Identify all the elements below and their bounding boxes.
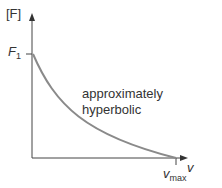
- f1-label: F1: [8, 44, 21, 61]
- x-axis-label: v: [187, 160, 194, 175]
- annotation-line2: hyperbolic: [82, 102, 141, 117]
- vmax-sub: max: [170, 173, 187, 183]
- y-axis-label: [F]: [6, 6, 21, 21]
- f1-main: F: [8, 44, 16, 59]
- f1-sub: 1: [16, 51, 21, 61]
- vmax-label: vmax: [163, 166, 187, 183]
- y-axis-arrow-icon: [29, 13, 35, 21]
- annotation-line1: approximately: [82, 86, 163, 101]
